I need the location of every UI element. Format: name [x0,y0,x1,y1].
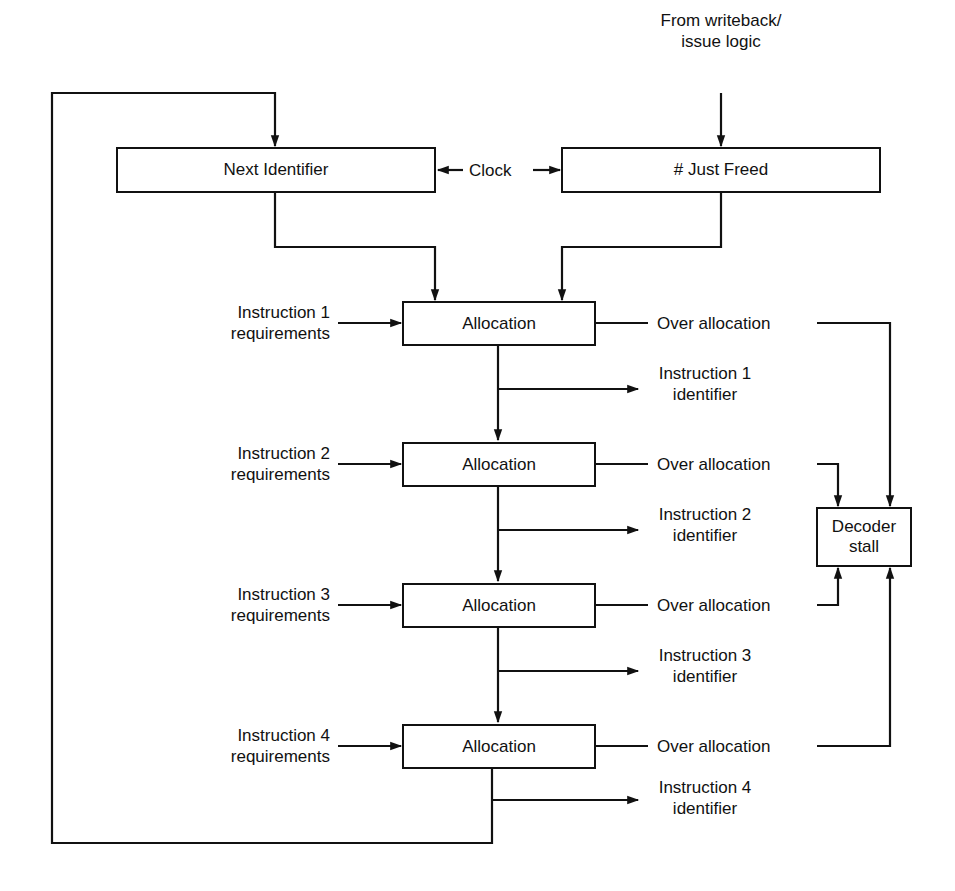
over-allocation-label-2: Over allocation [657,454,770,475]
next-to-alloc1-wire [275,192,435,300]
next-identifier-label: Next Identifier [224,160,329,180]
allocation-label: Allocation [462,314,536,334]
over4-wire [817,568,890,746]
instruction-1-identifier-label: Instruction 1 identifier [645,363,765,405]
over-allocation-label-3: Over allocation [657,595,770,616]
instruction-4-identifier-label: Instruction 4 identifier [645,777,765,819]
instruction-1-requirements-label: Instruction 1 requirements [200,302,330,344]
allocation-block-4: Allocation [402,724,596,769]
writeback-source-label: From writeback/ issue logic [640,10,802,52]
just-freed-block: # Just Freed [561,147,881,193]
over-allocation-label-1: Over allocation [657,313,770,334]
over3-wire [817,568,838,605]
allocation-block-3: Allocation [402,583,596,628]
over1-wire [817,323,890,506]
next-identifier-block: Next Identifier [116,147,436,193]
freed-to-alloc1-wire [562,192,721,300]
allocation-label: Allocation [462,737,536,757]
allocation-block-1: Allocation [402,301,596,346]
instruction-3-identifier-label: Instruction 3 identifier [645,645,765,687]
instruction-2-requirements-label: Instruction 2 requirements [200,443,330,485]
instruction-4-requirements-label: Instruction 4 requirements [200,725,330,767]
allocation-label: Allocation [462,455,536,475]
over-allocation-label-4: Over allocation [657,736,770,757]
decoder-stall-label: Decoder stall [832,517,896,557]
just-freed-label: # Just Freed [674,160,769,180]
decoder-stall-block: Decoder stall [816,507,912,567]
over2-wire [817,464,838,506]
instruction-3-requirements-label: Instruction 3 requirements [200,584,330,626]
instruction-2-identifier-label: Instruction 2 identifier [645,504,765,546]
allocation-label: Allocation [462,596,536,616]
clock-label: Clock [469,160,512,181]
allocation-block-2: Allocation [402,442,596,487]
